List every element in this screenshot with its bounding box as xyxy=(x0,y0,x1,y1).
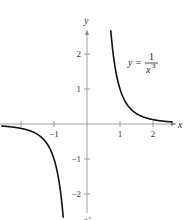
curve-branch-positive xyxy=(111,30,173,122)
equation-numerator: 1 xyxy=(149,51,154,62)
x-tick-label: 2 xyxy=(151,129,156,139)
x-axis-label: x xyxy=(177,119,183,130)
y-axis-arrow xyxy=(85,30,89,35)
y-tick-label: −2 xyxy=(71,189,81,199)
equation-annotation: y = 1 x 3 xyxy=(127,51,158,75)
equation-exponent: 3 xyxy=(152,62,156,70)
equation-denominator: x xyxy=(145,64,151,75)
y-axis-label: y xyxy=(83,15,89,26)
x-tick-label: −1 xyxy=(49,129,59,139)
curve-branch-negative xyxy=(1,126,63,218)
equation-lhs: y = xyxy=(127,57,142,68)
y-tick-label: −1 xyxy=(71,154,81,164)
y-tick-label: 1 xyxy=(77,84,82,94)
x-tick-label: 1 xyxy=(118,129,123,139)
chart: −112−2−112 x y y = 1 x 3 c² xyxy=(0,0,187,220)
caption: c² xyxy=(83,215,91,220)
y-tick-label: 2 xyxy=(77,49,82,59)
